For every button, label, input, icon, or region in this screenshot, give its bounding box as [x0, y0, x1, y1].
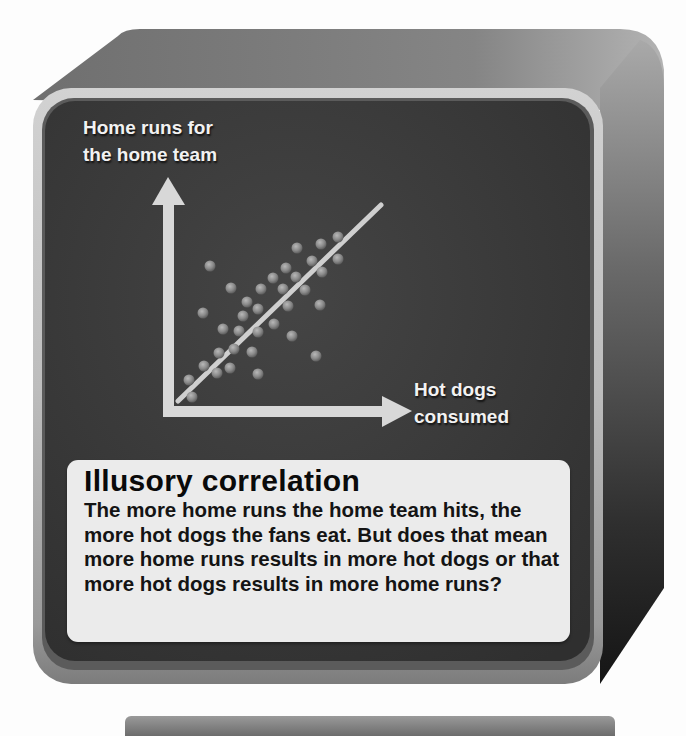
caption-body: The more home runs the home team hits, t…: [84, 498, 560, 596]
caption-title: Illusory correlation: [84, 464, 560, 498]
box-side-face: [600, 40, 664, 684]
y-axis-label: Home runs for the home team: [83, 114, 217, 168]
next-box-top-edge: [125, 716, 615, 736]
x-axis-label: Hot dogs consumed: [414, 376, 509, 430]
caption-box: Illusory correlation The more home runs …: [67, 460, 570, 642]
